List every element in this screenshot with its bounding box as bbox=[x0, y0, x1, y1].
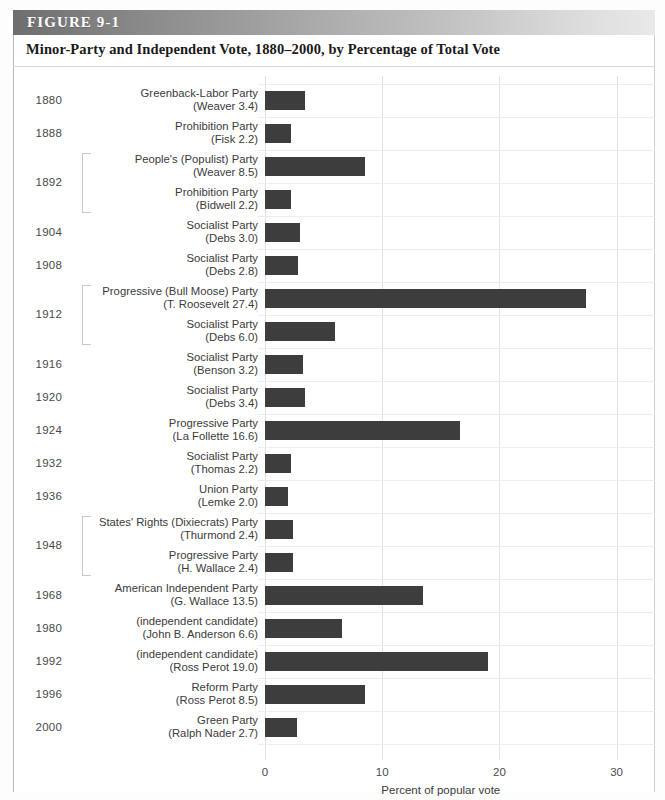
candidate-and-percent: (Thomas 2.2) bbox=[186, 463, 258, 477]
gridline-30 bbox=[617, 76, 618, 760]
bar bbox=[265, 586, 423, 605]
year-label-1996: 1996 bbox=[10, 688, 62, 700]
group-bracket-1948 bbox=[82, 516, 91, 576]
bar bbox=[265, 190, 291, 209]
bar bbox=[265, 256, 298, 275]
party-label: Reform Party(Ross Perot 8.5) bbox=[176, 681, 258, 708]
row-separator bbox=[258, 381, 655, 382]
candidate-and-percent: (Lemke 2.0) bbox=[198, 496, 258, 510]
x-tick-label-10: 10 bbox=[367, 766, 397, 778]
bar bbox=[265, 421, 460, 440]
party-name: Progressive Party bbox=[169, 549, 258, 561]
candidate-and-percent: (Fisk 2.2) bbox=[175, 133, 258, 147]
bar bbox=[265, 454, 291, 473]
row-separator bbox=[258, 711, 655, 712]
row-separator bbox=[258, 282, 655, 283]
year-label-1936: 1936 bbox=[10, 490, 62, 502]
party-name: States' Rights (Dixiecrats) Party bbox=[99, 516, 258, 528]
party-label: Progressive Party(H. Wallace 2.4) bbox=[169, 549, 258, 576]
party-name: Socialist Party bbox=[186, 450, 258, 462]
year-label-1912: 1912 bbox=[10, 308, 62, 320]
bar bbox=[265, 520, 293, 539]
row-separator bbox=[258, 546, 655, 547]
party-label: American Independent Party(G. Wallace 13… bbox=[115, 582, 258, 609]
year-label-1892: 1892 bbox=[10, 176, 62, 188]
group-bracket-1912 bbox=[82, 285, 91, 345]
party-name: Greenback-Labor Party bbox=[141, 87, 258, 99]
party-name: Socialist Party bbox=[186, 318, 258, 330]
party-name: Socialist Party bbox=[186, 219, 258, 231]
party-label: Socialist Party(Debs 3.0) bbox=[186, 219, 258, 246]
x-tick-label-30: 30 bbox=[602, 766, 632, 778]
row-separator bbox=[258, 447, 655, 448]
candidate-and-percent: (Weaver 3.4) bbox=[141, 100, 258, 114]
candidate-and-percent: (Debs 2.8) bbox=[186, 265, 258, 279]
party-label: Socialist Party(Debs 2.8) bbox=[186, 252, 258, 279]
row-separator bbox=[258, 579, 655, 580]
year-label-1904: 1904 bbox=[10, 226, 62, 238]
gridline-20 bbox=[499, 76, 500, 760]
year-label-1980: 1980 bbox=[10, 622, 62, 634]
year-label-1908: 1908 bbox=[10, 259, 62, 271]
candidate-and-percent: (T. Roosevelt 27.4) bbox=[102, 298, 258, 312]
candidate-and-percent: (Ross Perot 8.5) bbox=[176, 694, 258, 708]
party-name: Prohibition Party bbox=[175, 186, 258, 198]
year-label-1968: 1968 bbox=[10, 589, 62, 601]
party-label: Progressive Party(La Follette 16.6) bbox=[169, 417, 258, 444]
x-axis-title: Percent of popular vote bbox=[341, 784, 541, 796]
bar bbox=[265, 289, 586, 308]
bar bbox=[265, 322, 335, 341]
candidate-and-percent: (Bidwell 2.2) bbox=[175, 199, 258, 213]
row-separator bbox=[258, 645, 655, 646]
party-label: (independent candidate)(John B. Anderson… bbox=[136, 615, 258, 642]
party-name: Reform Party bbox=[191, 681, 258, 693]
party-name: (independent candidate) bbox=[136, 648, 258, 660]
figure-page: FIGURE 9-1 Minor-Party and Independent V… bbox=[0, 0, 665, 800]
row-separator bbox=[258, 348, 655, 349]
row-separator bbox=[258, 216, 655, 217]
party-label: Socialist Party(Thomas 2.2) bbox=[186, 450, 258, 477]
group-bracket-1892 bbox=[82, 153, 91, 213]
party-label: Union Party(Lemke 2.0) bbox=[198, 483, 258, 510]
party-name: Progressive (Bull Moose) Party bbox=[102, 285, 258, 297]
year-label-1880: 1880 bbox=[10, 94, 62, 106]
candidate-and-percent: (Debs 3.4) bbox=[186, 397, 258, 411]
party-name: Socialist Party bbox=[186, 384, 258, 396]
x-tick-label-0: 0 bbox=[250, 766, 280, 778]
party-label: (independent candidate)(Ross Perot 19.0) bbox=[136, 648, 258, 675]
row-separator bbox=[258, 117, 655, 118]
year-label-1920: 1920 bbox=[10, 391, 62, 403]
party-label: Socialist Party(Debs 3.4) bbox=[186, 384, 258, 411]
year-label-1992: 1992 bbox=[10, 655, 62, 667]
party-label: Socialist Party(Benson 3.2) bbox=[186, 351, 258, 378]
bar bbox=[265, 553, 293, 572]
candidate-and-percent: (Ross Perot 19.0) bbox=[136, 661, 258, 675]
year-label-1916: 1916 bbox=[10, 358, 62, 370]
bar bbox=[265, 718, 297, 737]
party-name: Union Party bbox=[199, 483, 258, 495]
party-name: Socialist Party bbox=[186, 252, 258, 264]
party-label: States' Rights (Dixiecrats) Party(Thurmo… bbox=[99, 516, 258, 543]
year-label-1888: 1888 bbox=[10, 127, 62, 139]
bar bbox=[265, 355, 303, 374]
candidate-and-percent: (Thurmond 2.4) bbox=[99, 529, 258, 543]
party-label: Prohibition Party(Fisk 2.2) bbox=[175, 120, 258, 147]
bar bbox=[265, 388, 305, 407]
party-name: American Independent Party bbox=[115, 582, 258, 594]
candidate-and-percent: (Debs 3.0) bbox=[186, 232, 258, 246]
row-separator bbox=[258, 480, 655, 481]
row-separator bbox=[258, 414, 655, 415]
year-label-1948: 1948 bbox=[10, 539, 62, 551]
row-separator bbox=[258, 744, 655, 745]
row-separator bbox=[258, 612, 655, 613]
year-label-1932: 1932 bbox=[10, 457, 62, 469]
row-separator bbox=[258, 513, 655, 514]
row-separator bbox=[258, 249, 655, 250]
candidate-and-percent: (H. Wallace 2.4) bbox=[169, 562, 258, 576]
row-separator bbox=[258, 84, 655, 85]
party-label: Prohibition Party(Bidwell 2.2) bbox=[175, 186, 258, 213]
bar bbox=[265, 91, 305, 110]
bar bbox=[265, 685, 365, 704]
candidate-and-percent: (Weaver 8.5) bbox=[135, 166, 258, 180]
party-name: Progressive Party bbox=[169, 417, 258, 429]
